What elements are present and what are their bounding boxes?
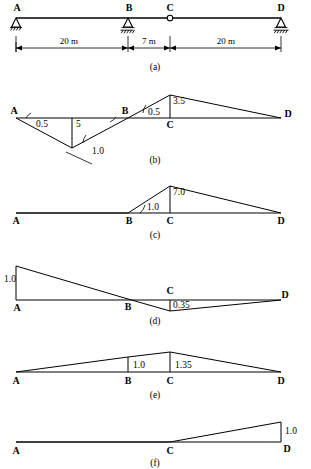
node-label-b: B (126, 2, 133, 13)
panel-d-value-1: 0.35 (173, 300, 190, 310)
panel-c-value-0: 1.0 (147, 202, 159, 212)
panel-e-node-c: C (166, 375, 173, 386)
panel-d-node-b: B (125, 301, 132, 312)
panel-e-value-0: 1.0 (133, 360, 145, 370)
support-b-pin-icon (121, 18, 135, 33)
panel-c-node-c: C (166, 215, 173, 226)
panel-d-node-a: A (13, 302, 21, 313)
panel-e-curve (16, 352, 281, 372)
dimension-label-bc: 7 m (142, 36, 156, 46)
panel-f-node-a: A (12, 445, 20, 456)
caption-f: (f) (150, 458, 160, 469)
caption-e: (e) (150, 390, 161, 401)
panel-c-value-1: 7.0 (173, 187, 185, 197)
panel-b-value-0: 0.5 (36, 119, 48, 129)
panel-b-tangent-line (66, 152, 92, 164)
node-label-a: A (13, 2, 21, 13)
panel-c-node-d: D (277, 215, 284, 226)
panel-f-curve (16, 422, 281, 442)
support-a-pin-icon (10, 18, 22, 31)
caption-d: (d) (149, 316, 160, 327)
panel-b-node-c: C (166, 119, 173, 130)
dimension-a-to-b: 20 m (16, 36, 128, 50)
caption-a: (a) (150, 62, 161, 73)
influence-line-figure: A B C D (0, 0, 311, 469)
panel-f-value-0: 1.0 (285, 426, 297, 436)
panel-b-value-2: 1.0 (92, 146, 104, 156)
panel-b-node-a: A (10, 105, 18, 116)
panel-f-influence-line: 1.0 A C D (f) (12, 422, 297, 469)
dimension-label-ab: 20 m (60, 36, 78, 46)
panel-b-value-1: 5 (76, 119, 81, 129)
panel-b-influence-line: A B C D 0.5 5 1.0 0.5 3.5 (b) (10, 95, 291, 166)
panel-b-node-b: B (122, 105, 129, 116)
node-label-c: C (166, 2, 173, 13)
panel-d-value-0: 1.0 (4, 274, 16, 284)
panel-f-node-c: C (166, 445, 173, 456)
panel-e-node-a: A (12, 375, 20, 386)
panel-e-node-b: B (125, 375, 132, 386)
caption-b: (b) (149, 155, 160, 166)
node-label-d: D (277, 2, 284, 13)
panel-b-node-d: D (284, 108, 291, 119)
panel-f-node-d: D (283, 443, 290, 454)
dimension-c-to-d: 20 m (170, 36, 281, 50)
panel-d-curve (16, 266, 281, 311)
dimension-b-to-c: 7 m (128, 36, 170, 50)
panel-e-value-1: 1.35 (175, 360, 192, 370)
support-d-pin-icon (274, 18, 289, 33)
panel-d-influence-line: 1.0 0.35 A B C D (d) (4, 266, 289, 327)
panel-b-curve (16, 95, 281, 148)
panel-b-value-3: 0.5 (148, 107, 160, 117)
panel-c-angle-arc-b (140, 205, 145, 213)
panel-c-node-b: B (126, 215, 133, 226)
caption-c: (c) (150, 230, 161, 241)
panel-e-influence-line: 1.0 1.35 A B C D (e) (12, 352, 284, 401)
panel-b-value-4: 3.5 (173, 96, 185, 106)
panel-a-beam-diagram: A B C D (10, 2, 289, 73)
panel-c-influence-line: A B C D 1.0 7.0 (c) (12, 186, 284, 241)
dimension-label-cd: 20 m (217, 36, 235, 46)
panel-b-angle-arc-a (26, 113, 31, 118)
panel-c-node-a: A (12, 215, 20, 226)
internal-hinge-icon (167, 15, 173, 21)
panel-e-node-d: D (277, 375, 284, 386)
panel-d-node-c: C (166, 285, 173, 296)
panel-d-node-d: D (281, 289, 288, 300)
